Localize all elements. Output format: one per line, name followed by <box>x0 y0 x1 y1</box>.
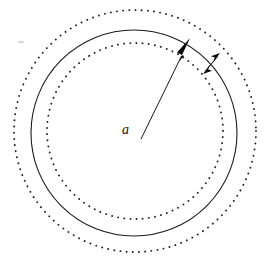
inner-dotted-circle <box>47 43 223 219</box>
outer-dotted-circle <box>14 10 256 252</box>
solid-circle <box>31 30 237 236</box>
figure-canvas: a <box>0 0 269 263</box>
gap-arrowhead-outer <box>211 53 220 63</box>
scan-speck-artifact <box>18 41 24 44</box>
gap-arrowhead-inner <box>203 65 212 75</box>
radius-arrow-shaft <box>141 56 182 139</box>
circle-diagram-svg: a <box>0 0 269 263</box>
radius-label-a: a <box>122 122 129 137</box>
